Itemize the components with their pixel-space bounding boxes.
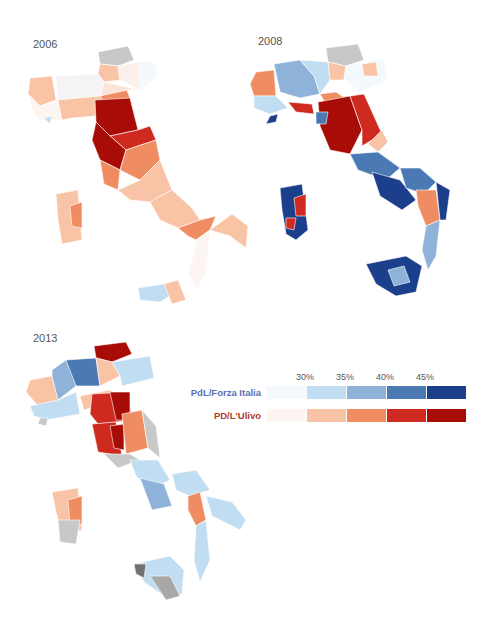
legend-swatch-pd-2 bbox=[307, 409, 346, 422]
map-2013 bbox=[0, 320, 260, 610]
legend-swatch-pdl-2 bbox=[307, 386, 346, 399]
legend-label-pd: PD/L'Ulivo bbox=[186, 410, 261, 421]
legend-tick-30: 30% bbox=[296, 372, 314, 382]
legend-swatch-pdl-4 bbox=[387, 386, 426, 399]
legend-tick-40: 40% bbox=[376, 372, 394, 382]
legend-swatch-pd-4 bbox=[387, 409, 426, 422]
legend-swatch-pdl-3 bbox=[347, 386, 386, 399]
legend-tick-35: 35% bbox=[336, 372, 354, 382]
legend-swatch-pdl-1 bbox=[267, 386, 306, 399]
legend-label-pdl: PdL/Forza Italia bbox=[186, 387, 261, 398]
legend-swatch-pd-5 bbox=[427, 409, 466, 422]
legend-tick-45: 45% bbox=[416, 372, 434, 382]
map-2006 bbox=[0, 30, 260, 310]
legend-swatch-pd-3 bbox=[347, 409, 386, 422]
legend-swatch-pd-1 bbox=[267, 409, 306, 422]
map-2008 bbox=[240, 30, 450, 310]
legend-swatch-pdl-5 bbox=[427, 386, 466, 399]
